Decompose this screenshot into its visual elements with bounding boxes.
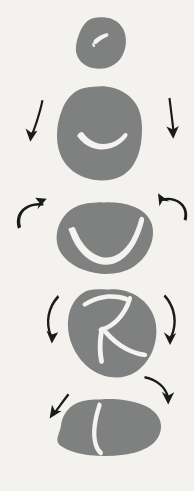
stage-5-body bbox=[57, 399, 161, 456]
sketch-figure: Hand-drawn developmental stage sequence … bbox=[0, 0, 194, 491]
stage-2-body bbox=[57, 86, 142, 180]
sketch-canvas bbox=[0, 0, 194, 491]
